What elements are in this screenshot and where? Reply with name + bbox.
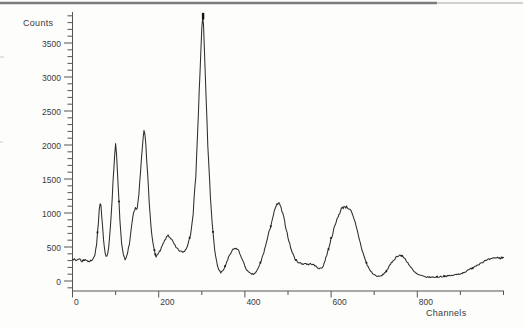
- y-tick-label: 0: [56, 277, 61, 287]
- peak-apex-mark: [202, 13, 204, 20]
- data-point-dot: [366, 262, 368, 264]
- x-tick-label: 200: [160, 297, 174, 307]
- data-point-dot: [330, 237, 332, 239]
- y-tick-label: 1000: [42, 209, 61, 219]
- y-tick-label: 3000: [42, 73, 61, 83]
- x-tick-label: 400: [246, 297, 260, 307]
- data-point-dot: [443, 275, 445, 277]
- data-point-dot: [401, 255, 403, 257]
- y-axis-title: Counts: [23, 18, 54, 28]
- y-tick-label: 500: [47, 243, 61, 253]
- spectrum-chart: Counts Channels 050010001500200025003000…: [0, 0, 523, 329]
- data-point-dot: [118, 201, 120, 203]
- data-point-dot: [154, 254, 156, 256]
- data-point-dot: [212, 231, 214, 233]
- spectrum-curve: [73, 18, 504, 278]
- data-point-dot: [436, 276, 438, 278]
- x-tick-label: 600: [333, 297, 347, 307]
- data-point-dot: [472, 267, 474, 269]
- data-point-dot: [328, 248, 330, 250]
- y-tick-label: 2500: [42, 107, 61, 117]
- data-point-dot: [260, 262, 262, 264]
- spectrum-figure: Counts Channels 050010001500200025003000…: [0, 0, 523, 329]
- data-point-dot: [97, 232, 99, 234]
- data-point-dot: [189, 237, 191, 239]
- data-point-dot: [154, 249, 156, 251]
- x-axis-title: Channels: [426, 308, 467, 318]
- data-point-dot: [385, 270, 387, 272]
- data-point-dot: [295, 259, 297, 261]
- y-tick-label: 2000: [42, 141, 61, 151]
- plot-area: 0500100015002000250030003500020040060080…: [42, 12, 504, 307]
- data-point-dot: [270, 225, 272, 227]
- y-tick-label: 3500: [42, 39, 61, 49]
- data-point-dot: [501, 257, 503, 259]
- data-point-dot: [224, 265, 226, 267]
- y-tick-label: 1500: [42, 175, 61, 185]
- data-point-dot: [83, 259, 85, 261]
- x-tick-label: 800: [419, 297, 433, 307]
- x-tick-label: 0: [74, 297, 79, 307]
